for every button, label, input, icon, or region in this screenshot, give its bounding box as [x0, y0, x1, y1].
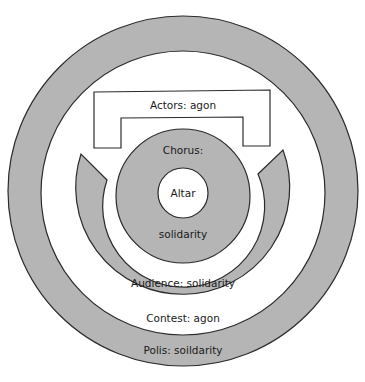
chorus-solidarity-label: solidarity — [159, 228, 207, 240]
chorus-label: Chorus: — [163, 144, 203, 156]
contest-label: Contest: agon — [146, 312, 220, 324]
actors-label: Actors: agon — [150, 99, 216, 111]
theatre-polis-diagram: Actors: agon Chorus: Altar solidarity Au… — [0, 0, 365, 382]
polis-label: Polis: soildarity — [144, 344, 223, 356]
altar-label: Altar — [171, 187, 197, 199]
audience-label: Audience: solidarity — [131, 277, 235, 289]
